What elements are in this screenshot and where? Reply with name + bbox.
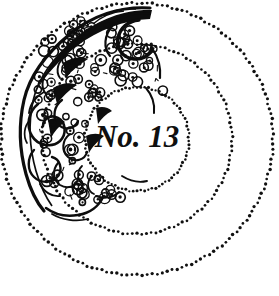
ring-dot — [146, 2, 149, 5]
ring-dot — [121, 88, 124, 91]
ring-dot — [271, 127, 274, 130]
ring-dot — [59, 25, 62, 28]
ring-dot — [19, 70, 22, 73]
ring-dot — [95, 171, 97, 173]
ring-dot — [92, 165, 95, 168]
ring-dot — [182, 114, 184, 116]
ring-dot — [269, 158, 272, 161]
ring-dot — [164, 228, 167, 231]
ring-dot — [8, 87, 11, 90]
ring-dot — [176, 171, 179, 174]
ring-dot — [100, 268, 103, 271]
ring-dot — [252, 70, 256, 74]
ring-dot — [124, 188, 127, 191]
ring-dot — [231, 131, 234, 134]
ring-dot — [2, 112, 5, 115]
ring-dot — [242, 52, 245, 55]
ring-dot — [125, 273, 128, 276]
ring-dot — [82, 216, 85, 219]
ring-dot — [72, 258, 75, 261]
ring-dot — [33, 49, 36, 52]
ring-dot — [147, 189, 149, 191]
ring-dot — [187, 128, 190, 131]
ring-dot — [266, 172, 269, 175]
ring-dot — [43, 159, 46, 162]
ring-dot — [26, 218, 29, 221]
ring-dot — [203, 20, 206, 23]
ring-dot — [261, 83, 264, 86]
ring-dot — [2, 107, 5, 110]
ring-dot — [216, 247, 219, 250]
ring-dot — [184, 158, 187, 161]
ring-dot — [0, 132, 3, 135]
ring-dot — [159, 46, 162, 49]
ring-dot — [55, 189, 58, 192]
ring-dot — [230, 149, 233, 152]
berry-core — [91, 91, 94, 94]
ring-dot — [85, 265, 88, 268]
ring-dot — [1, 163, 4, 166]
ring-dot — [51, 243, 54, 246]
ring-dot — [204, 71, 207, 74]
ring-dot — [173, 102, 176, 105]
ring-dot — [227, 163, 230, 166]
berry-core — [69, 129, 72, 132]
ring-dot — [19, 205, 22, 208]
ring-dot — [171, 268, 174, 271]
ring-dot — [230, 126, 233, 129]
ring-dot — [258, 79, 261, 82]
ring-dot — [30, 53, 33, 56]
ring-dot — [220, 94, 223, 97]
ring-dot — [128, 190, 130, 192]
berry-core — [131, 76, 134, 79]
berry-core — [56, 173, 60, 177]
ring-dot — [121, 232, 124, 235]
ring-dot — [216, 86, 219, 89]
ring-dot — [155, 231, 158, 234]
ring-dot — [246, 219, 249, 222]
ring-dot — [156, 4, 159, 7]
ring-dot — [164, 181, 166, 183]
ring-dot — [64, 201, 67, 204]
ring-dot — [208, 74, 211, 77]
berry-core — [136, 39, 139, 42]
ring-dot — [180, 9, 183, 12]
ring-dot — [0, 137, 3, 140]
ring-dot — [228, 237, 231, 240]
ring-dot — [108, 47, 111, 50]
ring-dot — [5, 102, 9, 106]
ring-dot — [199, 17, 203, 21]
ring-dot — [181, 220, 184, 223]
ring-dot — [92, 107, 95, 110]
ring-dot — [135, 189, 138, 192]
ring-dot — [85, 143, 88, 146]
ring-dot — [222, 177, 225, 180]
berry-core — [124, 54, 127, 57]
ring-dot — [196, 65, 199, 68]
ring-dot — [86, 56, 89, 59]
ring-dot — [67, 204, 70, 207]
ring-dot — [181, 161, 184, 164]
ring-dot — [20, 210, 23, 213]
ring-dot — [86, 11, 90, 15]
ring-dot — [250, 210, 253, 213]
ring-dot — [3, 168, 6, 171]
berry-core — [43, 140, 45, 142]
berry-core — [77, 183, 80, 186]
ring-dot — [206, 200, 209, 203]
ring-dot — [99, 225, 102, 228]
ring-dot — [225, 103, 228, 106]
ring-dot — [161, 271, 164, 274]
ring-dot — [185, 57, 188, 60]
berry-core — [69, 148, 73, 152]
berry-core — [84, 122, 86, 124]
berry-core — [85, 29, 88, 32]
berry-core — [88, 83, 90, 85]
ring-dot — [268, 107, 271, 110]
ring-dot — [91, 9, 94, 12]
ring-dot — [87, 154, 89, 156]
ring-dot — [217, 27, 220, 30]
berry-core — [79, 20, 82, 23]
ring-dot — [94, 52, 97, 55]
engraved-plate: No. 13 — [0, 0, 279, 296]
